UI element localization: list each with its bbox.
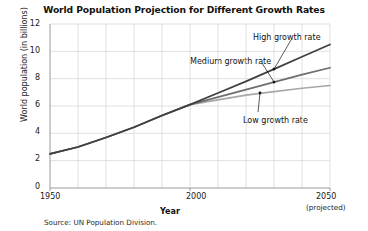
plot-canvas — [0, 0, 368, 231]
annotation-leader-lines — [258, 40, 291, 112]
gridlines — [50, 24, 330, 188]
population-projection-chart: World Population Projection for Differen… — [0, 0, 368, 231]
